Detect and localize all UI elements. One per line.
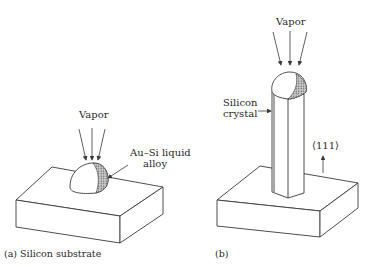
caption-b: (b) <box>215 248 229 259</box>
vapor-arrows-a <box>79 128 105 160</box>
droplet-b <box>272 72 307 99</box>
droplet-label-line2: alloy <box>143 158 167 169</box>
silicon-crystal-column <box>272 92 304 198</box>
vapor-label-a: Vapor <box>79 109 108 120</box>
vapor-arrows-b <box>273 31 307 65</box>
droplet-label-line1: Au–Si liquid <box>130 147 191 158</box>
droplet-pointer-arrow <box>108 165 128 178</box>
direction-label: ⟨111⟩ <box>312 140 339 151</box>
diagram-canvas <box>0 0 376 267</box>
vls-growth-figure: Vapor Au–Si liquid alloy (a) Silicon sub… <box>0 0 376 267</box>
caption-a: (a) Silicon substrate <box>4 248 101 259</box>
vapor-label-b: Vapor <box>276 16 305 27</box>
crystal-label-line1: Silicon <box>223 97 258 108</box>
crystal-label-line2: crystal <box>223 108 257 119</box>
droplet-a <box>70 163 108 193</box>
